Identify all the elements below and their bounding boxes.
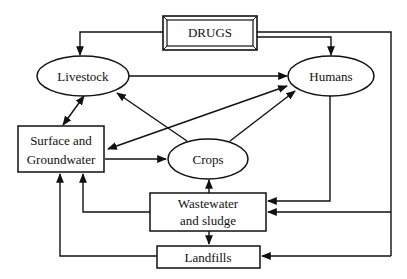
node-wastewater-label-line2: and sludge [180, 213, 236, 228]
edge-wastewater-surface [83, 174, 150, 212]
node-wastewater: Wastewater and sludge [150, 193, 266, 231]
node-crops-label: Crops [192, 152, 223, 167]
node-surface-label-line2: Groundwater [27, 152, 96, 167]
node-landfills: Landfills [157, 246, 260, 268]
node-surface-label-line1: Surface and [30, 133, 92, 148]
node-humans-label: Humans [309, 69, 352, 84]
edge-humans-wastewater [268, 95, 330, 201]
edge-crops-humans [230, 91, 295, 141]
edge-landfills-surface [60, 174, 157, 256]
drug-flow-diagram: DRUGS Livestock Humans Surface and Groun… [0, 0, 407, 279]
node-drugs-label: DRUGS [188, 25, 232, 40]
node-livestock-label: Livestock [57, 69, 109, 84]
node-drugs: DRUGS [163, 16, 257, 50]
node-humans: Humans [288, 56, 374, 96]
node-livestock: Livestock [37, 56, 129, 96]
node-wastewater-label-line1: Wastewater [178, 196, 239, 211]
edge-livestock-surface [63, 96, 84, 125]
node-surface-groundwater: Surface and Groundwater [18, 126, 104, 172]
node-landfills-label: Landfills [185, 250, 232, 265]
node-crops: Crops [168, 139, 248, 179]
edge-drugs-livestock [80, 32, 163, 55]
edge-drugs-humans [257, 37, 331, 55]
